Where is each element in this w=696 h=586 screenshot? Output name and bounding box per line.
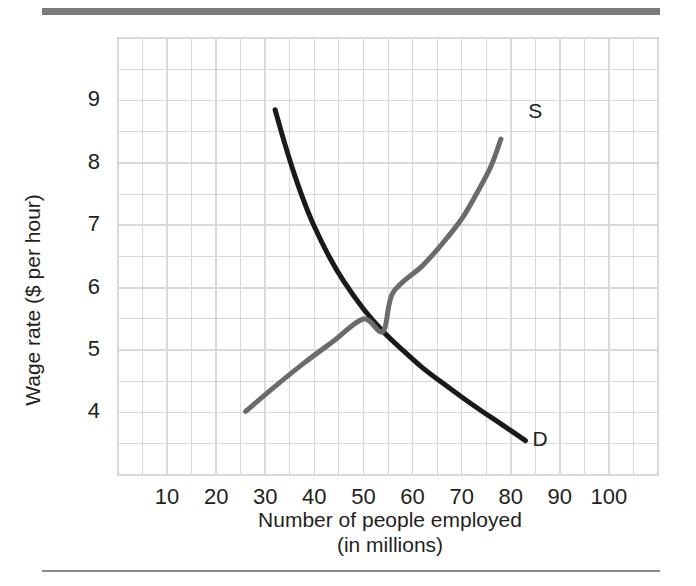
x-tick-label: 80 — [498, 484, 522, 509]
y-axis-title: Wage rate ($ per hour) — [21, 194, 44, 406]
x-tick-label: 20 — [204, 484, 228, 509]
x-tick-label: 40 — [302, 484, 326, 509]
x-axis-tick-labels: 102030405060708090100 — [155, 484, 627, 509]
supply-curve-label: S — [528, 99, 542, 122]
demand-curve — [275, 110, 525, 441]
x-tick-label: 90 — [548, 484, 572, 509]
x-tick-label: 50 — [351, 484, 375, 509]
y-tick-label: 6 — [88, 274, 100, 299]
y-tick-label: 4 — [88, 398, 100, 423]
y-tick-label: 9 — [88, 86, 100, 111]
x-tick-label: 30 — [253, 484, 277, 509]
x-tick-label: 70 — [449, 484, 473, 509]
supply-curve — [246, 139, 501, 411]
x-tick-label: 10 — [155, 484, 179, 509]
y-axis-tick-labels: 456789 — [88, 86, 100, 423]
y-tick-label: 8 — [88, 149, 100, 174]
x-tick-label: 60 — [400, 484, 424, 509]
grid-minor-lines — [118, 38, 658, 475]
demand-curve-label: D — [533, 427, 548, 450]
x-axis-title-line1: Number of people employed — [258, 508, 522, 531]
curve-group — [246, 110, 526, 441]
chart-canvas: 456789 102030405060708090100 S D Wage ra… — [0, 0, 696, 586]
x-axis-title-line2: (in millions) — [337, 533, 443, 556]
x-tick-label: 100 — [591, 484, 628, 509]
economics-supply-demand-figure: 456789 102030405060708090100 S D Wage ra… — [0, 0, 696, 586]
y-tick-label: 5 — [88, 336, 100, 361]
y-tick-label: 7 — [88, 211, 100, 236]
